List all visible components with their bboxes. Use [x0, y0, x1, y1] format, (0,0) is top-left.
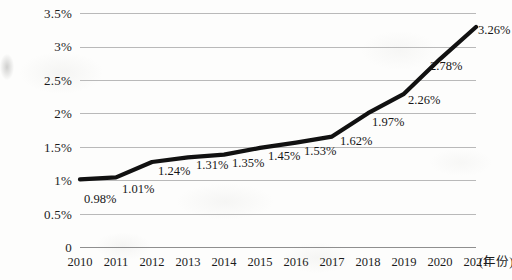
data-label-2021: 3.26%: [478, 24, 510, 37]
x-axis-unit-label: (年份): [479, 256, 512, 269]
data-label-2020: 2.78%: [430, 60, 462, 73]
y-tick-label-1: 1%: [12, 174, 72, 187]
chart-page: 3.5% 3% 2.5% 2% 1.5% 1% 0.5% 0 2010 2011…: [0, 0, 512, 280]
line-chart-plot: [0, 0, 512, 280]
data-label-2014: 1.35%: [232, 157, 264, 170]
data-label-2012: 1.24%: [158, 165, 190, 178]
data-label-2015: 1.45%: [268, 150, 300, 163]
y-tick-label-0.5: 0.5%: [12, 208, 72, 221]
y-tick-label-2: 2%: [12, 107, 72, 120]
data-label-2019: 2.26%: [408, 94, 440, 107]
data-label-2011: 1.01%: [122, 183, 154, 196]
y-tick-label-1.5: 1.5%: [12, 141, 72, 154]
y-tick-label-0: 0: [12, 241, 72, 254]
y-tick-label-2.5: 2.5%: [12, 74, 72, 87]
data-label-2017: 1.62%: [340, 135, 372, 148]
data-label-2016: 1.53%: [304, 145, 336, 158]
data-label-2010: 0.98%: [84, 193, 116, 206]
y-tick-label-3.5: 3.5%: [12, 7, 72, 20]
data-label-2013: 1.31%: [196, 159, 228, 172]
data-label-2018: 1.97%: [372, 116, 404, 129]
y-tick-label-3: 3%: [12, 40, 72, 53]
